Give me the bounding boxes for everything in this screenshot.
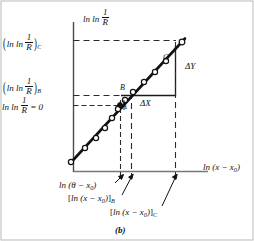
arrowhead-xb bbox=[129, 174, 134, 179]
figure-panel: ln ln 1R (ln ln 1R)C (ln ln 1R)B ln ln 1… bbox=[0, 0, 254, 241]
data-point bbox=[179, 39, 185, 45]
data-point bbox=[109, 115, 114, 120]
y-axis-title: ln ln 1R bbox=[83, 8, 109, 28]
data-point bbox=[82, 145, 87, 150]
leader-line-xc bbox=[162, 176, 176, 206]
data-point bbox=[130, 89, 135, 94]
point-b-label: B bbox=[120, 84, 125, 92]
x-label-theta: ln (θ − x0) bbox=[59, 181, 96, 191]
x-label-c: [ln (x − x0)]C bbox=[110, 208, 157, 218]
data-point bbox=[141, 79, 146, 84]
data-point bbox=[93, 135, 98, 140]
y-label-c: (ln ln 1R)C bbox=[2, 33, 41, 53]
arrowhead-xc bbox=[172, 174, 177, 179]
data-point bbox=[102, 125, 107, 130]
y-label-zero: ln ln 1R = 0 bbox=[2, 96, 43, 116]
figure-caption: (b) bbox=[115, 226, 126, 235]
y-label-b: (ln ln 1R)B bbox=[2, 77, 41, 97]
x-axis-title: ln (x − x0) bbox=[203, 163, 240, 173]
leader-arrows bbox=[115, 174, 177, 206]
point-a-label: A bbox=[122, 103, 127, 111]
delta-y-label: ΔY bbox=[185, 62, 195, 71]
data-point bbox=[68, 159, 73, 164]
point-c-label: C bbox=[163, 54, 168, 62]
delta-x-label: ΔX bbox=[140, 99, 151, 108]
x-label-b: [ln (x − x0)]B bbox=[68, 194, 115, 204]
data-point bbox=[152, 69, 157, 74]
